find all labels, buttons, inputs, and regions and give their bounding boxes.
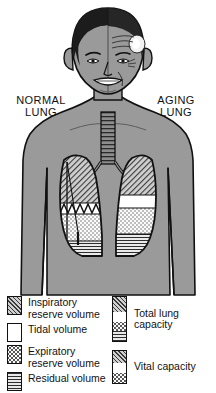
legend-item-expiratory-reserve-volume: Expiratory reserve volume bbox=[7, 345, 112, 369]
legend-label-tidal: Tidal volume bbox=[28, 323, 87, 336]
legend-label-inspiratory: Inspiratory reserve volume bbox=[28, 296, 100, 320]
label-normal-line1: NORMAL bbox=[6, 94, 76, 106]
legend-item-residual-volume: Residual volume bbox=[7, 372, 112, 391]
swatch-hatch-icon bbox=[7, 296, 22, 315]
legend-label-expiratory: Expiratory reserve volume bbox=[28, 345, 100, 369]
label-aging-line1: AGING bbox=[142, 94, 210, 106]
vc-segment-tidal bbox=[113, 363, 126, 373]
legend-item-tidal-volume: Tidal volume bbox=[7, 323, 112, 342]
label-normal-line2: LUNG bbox=[6, 106, 76, 118]
tlc-segment-expiratory bbox=[113, 322, 126, 332]
legend-item-total-lung-capacity: Total lung capacity bbox=[112, 296, 216, 342]
legend-capacities-column: Total lung capacity Vital capacity bbox=[112, 296, 216, 384]
capacity-bar-total-lung-icon bbox=[112, 296, 127, 342]
label-aging-line2: LUNG bbox=[142, 106, 210, 118]
vc-segment-expiratory bbox=[113, 373, 126, 383]
legend-label-total-lung-capacity: Total lung capacity bbox=[134, 308, 179, 331]
vc-segment-inspiratory bbox=[113, 351, 126, 363]
label-normal-lung: NORMAL LUNG bbox=[6, 94, 76, 118]
swatch-stipple-icon bbox=[7, 345, 22, 364]
tlc-segment-inspiratory bbox=[113, 297, 126, 312]
swatch-blank-icon bbox=[7, 323, 22, 342]
tlc-segment-residual bbox=[113, 331, 126, 341]
label-aging-lung: AGING LUNG bbox=[142, 94, 210, 118]
legend-item-vital-capacity: Vital capacity bbox=[112, 350, 216, 384]
legend-volumes-column: Inspiratory reserve volume Tidal volume … bbox=[7, 296, 112, 393]
swatch-horizontal-icon bbox=[7, 372, 22, 391]
legend: Inspiratory reserve volume Tidal volume … bbox=[0, 296, 216, 393]
legend-label-vital-capacity: Vital capacity bbox=[134, 361, 196, 373]
legend-item-inspiratory-reserve-volume: Inspiratory reserve volume bbox=[7, 296, 112, 320]
legend-label-residual: Residual volume bbox=[28, 372, 106, 385]
tlc-segment-tidal bbox=[113, 312, 126, 322]
capacity-bar-vital-icon bbox=[112, 350, 127, 384]
